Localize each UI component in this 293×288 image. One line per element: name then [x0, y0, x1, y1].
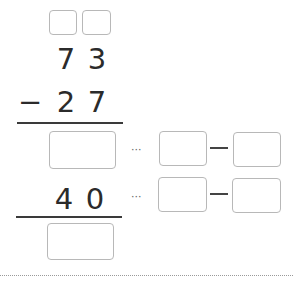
ellipsis-row2: ···: [131, 190, 142, 203]
step1-result-box[interactable]: [49, 131, 116, 169]
dotted-divider: [0, 275, 293, 276]
minus-dash-row2: [210, 193, 228, 195]
partial-tens-digit: 4: [53, 185, 75, 214]
minus-sign: −: [18, 88, 40, 117]
step2-right-box[interactable]: [232, 178, 281, 213]
step1-left-box[interactable]: [159, 131, 207, 166]
step2-left-box[interactable]: [158, 177, 207, 212]
subtrahend-tens-digit: 2: [55, 88, 77, 117]
minus-dash-row1: [210, 147, 228, 149]
subtrahend-ones-digit: 7: [86, 88, 108, 117]
minuend-ones-digit: 3: [86, 45, 108, 74]
step1-right-box[interactable]: [233, 132, 281, 167]
sum-rule-1: [17, 122, 123, 124]
minuend-tens-digit: 7: [55, 45, 77, 74]
sum-rule-2: [16, 216, 122, 218]
final-result-box[interactable]: [47, 223, 114, 260]
partial-ones-digit: 0: [84, 185, 106, 214]
ellipsis-row1: ···: [131, 143, 142, 156]
carry-box-ones[interactable]: [82, 10, 111, 35]
carry-box-tens[interactable]: [49, 10, 77, 35]
